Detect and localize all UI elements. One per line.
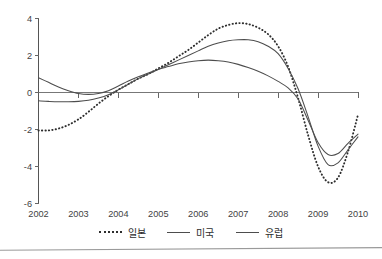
series-line [39,23,359,183]
legend-label-japan: 일본 [128,225,146,240]
y-tick-label: -2 [24,125,32,135]
y-tick-label: 2 [27,51,32,61]
y-tick-label: 4 [27,14,32,24]
legend-item-europe[interactable]: 유럽 [236,225,283,240]
x-tick-label: 2002 [28,209,48,219]
chart-series-lines [39,23,359,183]
x-tick-label: 2008 [268,209,288,219]
x-tick-label: 2004 [108,209,128,219]
x-tick-label: 2005 [148,209,168,219]
y-tick-label: -4 [24,162,32,172]
bottom-divider-rule [0,246,382,256]
legend-label-europe: 유럽 [265,225,283,240]
legend-swatch-solid-icon [236,231,259,234]
y-axis-tick-labels: 420-2-4-6 [24,14,32,209]
y-tick-label: 0 [27,88,32,98]
legend-label-usa: 미국 [196,225,214,240]
chart-figure: 420-2-4-6 200220032004200520062007200820… [0,0,382,259]
x-tick-label: 2006 [188,209,208,219]
series-line [39,40,359,166]
x-tick-label: 2007 [228,209,248,219]
x-tick-label: 2010 [348,209,368,219]
legend-item-japan[interactable]: 일본 [99,225,146,240]
x-axis-tick-labels: 200220032004200520062007200820092010 [28,209,368,219]
x-tick-label: 2003 [68,209,88,219]
chart-legend: 일본 미국 유럽 [0,222,382,242]
chart-axes [35,19,359,204]
y-tick-label: -6 [24,199,32,209]
legend-swatch-dotted-icon [99,231,122,234]
line-chart-plot: 420-2-4-6 200220032004200520062007200820… [0,0,382,259]
x-tick-label: 2009 [308,209,328,219]
legend-item-usa[interactable]: 미국 [167,225,214,240]
legend-swatch-solid-icon [167,231,190,234]
